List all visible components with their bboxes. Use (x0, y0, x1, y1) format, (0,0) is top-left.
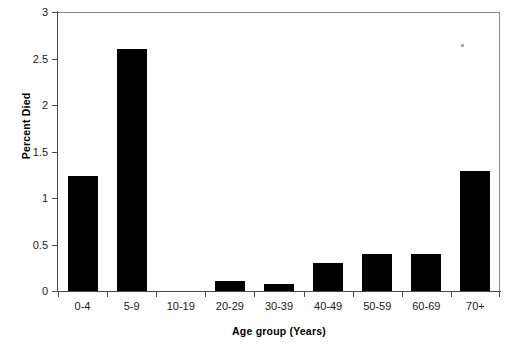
x-axis-tick-labels: 0-45-910-1920-2930-3940-4950-5960-6970+ (58, 300, 500, 312)
x-tick-slot (451, 292, 500, 297)
x-axis-tick-label: 60-69 (402, 300, 451, 312)
x-axis-tick-label: 70+ (451, 300, 500, 312)
bar-60-69 (411, 254, 441, 291)
bar-30-39 (264, 284, 294, 291)
x-tick-slot (353, 292, 402, 297)
x-axis-title: Age group (Years) (58, 325, 500, 337)
x-tick-slot (156, 292, 205, 297)
y-axis-tick-label: 1.5 (4, 146, 48, 157)
y-axis-tick-label: 1 (4, 193, 48, 204)
x-axis-tick-mark (156, 292, 157, 297)
y-axis-tick-label: 2 (4, 100, 48, 111)
x-axis-tick-label: 0-4 (58, 300, 107, 312)
y-axis-tick-label: 0.5 (4, 239, 48, 250)
bar-series (58, 12, 500, 291)
bar-slot (451, 12, 500, 291)
x-axis-tick-mark (58, 292, 59, 297)
x-axis-tick-mark (254, 292, 255, 297)
x-axis-tick-mark (304, 292, 305, 297)
x-axis-tick-label: 20-29 (205, 300, 254, 312)
x-axis-tick-mark (353, 292, 354, 297)
bar-50-59 (362, 254, 392, 291)
x-axis-tick-mark (205, 292, 206, 297)
y-axis-tick-label: 0 (4, 286, 48, 297)
scan-artifact-speck (461, 44, 464, 47)
bar-slot (353, 12, 402, 291)
x-axis-tick-mark (107, 292, 108, 297)
bar-slot (107, 12, 156, 291)
x-axis-tick-end (499, 292, 500, 297)
x-tick-slot (205, 292, 254, 297)
x-axis-tick-label: 50-59 (353, 300, 402, 312)
x-axis-tick-label: 40-49 (304, 300, 353, 312)
bar-slot (304, 12, 353, 291)
y-axis-title: Percent Died (20, 56, 32, 196)
y-axis-tick-label: 3 (4, 7, 48, 18)
x-tick-slot (107, 292, 156, 297)
x-axis-tick-mark (451, 292, 452, 297)
y-axis-tick-label: 2.5 (4, 53, 48, 64)
bar-5-9 (117, 49, 147, 291)
bar-chart: Percent Died 32.521.510.50 0-45-910-1920… (0, 0, 518, 352)
x-tick-slot (304, 292, 353, 297)
x-axis-tick-label: 10-19 (156, 300, 205, 312)
bar-slot (254, 12, 303, 291)
bar-40-49 (313, 263, 343, 291)
x-axis-tick-mark (402, 292, 403, 297)
bar-0-4 (68, 176, 98, 291)
x-tick-slot (58, 292, 107, 297)
bar-slot (58, 12, 107, 291)
bar-slot (156, 12, 205, 291)
x-tick-slot (402, 292, 451, 297)
bar-slot (402, 12, 451, 291)
bar-slot (205, 12, 254, 291)
bar-70+ (460, 171, 490, 291)
x-axis-tick-label: 5-9 (107, 300, 156, 312)
x-tick-slot (254, 292, 303, 297)
bar-20-29 (215, 281, 245, 291)
x-axis-tick-marks (58, 292, 500, 297)
x-axis-tick-label: 30-39 (254, 300, 303, 312)
